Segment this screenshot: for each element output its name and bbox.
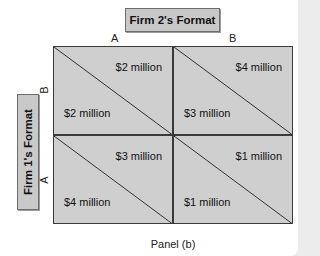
firm1-payoff: $3 million [184,107,230,119]
payoff-cell-a-a: $3 million $4 million [53,135,173,224]
row-label-b: B [38,86,50,93]
payoff-cell-b-a: $2 million $2 million [53,46,173,135]
column-player-label-text: Firm 2's Format [130,14,216,26]
row-player-label-text: Firm 1's Format [22,109,34,195]
firm1-payoff: $4 million [64,196,110,208]
firm2-payoff: $3 million [116,150,162,162]
firm1-payoff: $1 million [184,196,230,208]
column-label-a: A [111,32,118,44]
panel-caption: Panel (b) [0,238,320,250]
firm2-payoff: $2 million [116,61,162,73]
firm2-payoff: $4 million [236,61,282,73]
column-player-label: Firm 2's Format [125,8,220,32]
firm1-payoff: $2 million [64,107,110,119]
row-label-a: A [38,176,50,183]
firm2-payoff: $1 million [236,150,282,162]
payoff-matrix: $2 million $2 million $4 million $3 mill… [53,46,293,224]
column-label-b: B [229,32,236,44]
row-player-label: Firm 1's Format [17,94,39,210]
payoff-cell-a-b: $1 million $1 million [173,135,293,224]
payoff-cell-b-b: $4 million $3 million [173,46,293,135]
